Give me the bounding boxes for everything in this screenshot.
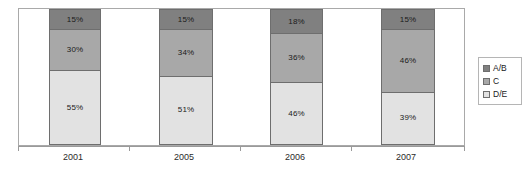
bar-segment-label: 34% — [178, 49, 194, 57]
bar-segment-de-2001[interactable]: 55% — [49, 70, 101, 145]
bar-2005[interactable]: 15% 34% 51% — [159, 9, 213, 145]
x-axis-label-2005: 2005 — [174, 152, 194, 162]
bar-segment-label: 30% — [67, 46, 83, 54]
bar-group-2006[interactable]: 18% 36% 46% — [270, 9, 323, 145]
legend-item-de[interactable]: D/E — [483, 88, 518, 100]
chart-legend: A/B C D/E — [478, 57, 522, 105]
bar-segment-c-2007[interactable]: 46% — [381, 29, 435, 92]
bar-segment-c-2001[interactable]: 30% — [49, 29, 101, 70]
bar-segment-label: 18% — [288, 18, 304, 26]
legend-item-ab[interactable]: A/B — [483, 62, 518, 74]
x-axis-tick — [351, 146, 352, 151]
bar-segment-de-2007[interactable]: 39% — [381, 92, 435, 145]
bar-segment-label: 15% — [400, 16, 416, 24]
bar-segment-label: 46% — [288, 110, 304, 118]
legend-label: D/E — [493, 90, 507, 99]
legend-swatch-icon — [483, 65, 490, 72]
legend-swatch-icon — [483, 91, 490, 98]
bar-segment-ab-2007[interactable]: 15% — [381, 9, 435, 29]
x-axis-tick — [464, 146, 465, 151]
x-axis-tick — [240, 146, 241, 151]
bar-segment-label: 46% — [400, 57, 416, 65]
legend-label: C — [493, 77, 499, 86]
x-axis-label-2006: 2006 — [285, 152, 305, 162]
bar-segment-ab-2001[interactable]: 15% — [49, 9, 101, 29]
x-axis-line — [18, 146, 465, 147]
bar-segment-label: 36% — [288, 54, 304, 62]
bar-2007[interactable]: 15% 46% 39% — [381, 9, 435, 145]
bar-2006[interactable]: 18% 36% 46% — [270, 9, 323, 145]
bar-segment-c-2006[interactable]: 36% — [270, 33, 323, 82]
bar-group-2007[interactable]: 15% 46% 39% — [381, 9, 435, 145]
bar-segment-label: 15% — [178, 16, 194, 24]
bar-2001[interactable]: 15% 30% 55% — [49, 9, 101, 145]
plot-area: 15% 30% 55% 15% 34% 51% — [18, 8, 465, 146]
bar-group-2001[interactable]: 15% 30% 55% — [49, 9, 101, 145]
x-axis-tick — [18, 146, 19, 151]
bar-group-2005[interactable]: 15% 34% 51% — [159, 9, 213, 145]
bar-segment-de-2005[interactable]: 51% — [159, 76, 213, 145]
bar-segment-label: 15% — [67, 16, 83, 24]
legend-label: A/B — [493, 64, 507, 73]
bar-segment-ab-2006[interactable]: 18% — [270, 9, 323, 33]
legend-item-c[interactable]: C — [483, 75, 518, 87]
bar-segment-de-2006[interactable]: 46% — [270, 82, 323, 145]
bar-segment-label: 51% — [178, 106, 194, 114]
bar-segment-c-2005[interactable]: 34% — [159, 29, 213, 75]
stacked-bar-chart: 15% 30% 55% 15% 34% 51% — [0, 0, 531, 171]
x-axis-label-2007: 2007 — [396, 152, 416, 162]
legend-swatch-icon — [483, 78, 490, 85]
bar-segment-label: 39% — [400, 114, 416, 122]
bar-segment-ab-2005[interactable]: 15% — [159, 9, 213, 29]
bar-segment-label: 55% — [67, 104, 83, 112]
x-axis-tick — [129, 146, 130, 151]
x-axis-label-2001: 2001 — [63, 152, 83, 162]
